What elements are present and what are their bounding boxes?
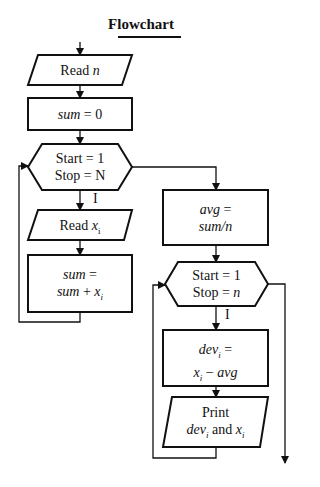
loop1-exit: [132, 167, 216, 190]
diagram-title: Flowchart: [100, 16, 182, 33]
print-label: Print devi and xi: [163, 404, 268, 444]
loop1-label: Start = 1 Stop = N: [28, 150, 132, 184]
loop1-iter-label: I: [93, 191, 98, 207]
accumulate-label: sum = sum + xi: [28, 266, 132, 306]
loop2-iter-label: I: [225, 307, 230, 323]
title-underline: [118, 36, 181, 38]
read-n-label: Read n: [28, 62, 132, 79]
loop2-label: Start = 1 Stop = n: [165, 267, 268, 301]
read-xi-label: Read xi: [28, 217, 132, 240]
init-sum-label: sum = 0: [28, 106, 132, 123]
deviation-label: devi = xi − avg: [163, 341, 268, 387]
average-label: avg = sum/n: [163, 201, 268, 235]
loop2-exit: [268, 284, 285, 463]
